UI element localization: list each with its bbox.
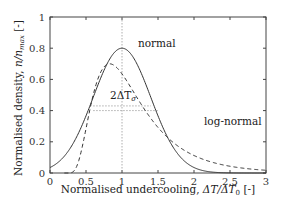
normal-label: normal <box>138 37 176 49</box>
y-tick-label: 0.8 <box>29 43 45 54</box>
y-tick-label: 0 <box>39 168 45 179</box>
y-tick-label: 0.6 <box>29 74 45 85</box>
x-tick-label: 3 <box>263 176 269 187</box>
density-chart: 00.20.40.60.81 00.511.522.53 normal log-… <box>0 0 284 211</box>
log-normal-label: log-normal <box>204 115 262 127</box>
x-axis-label: Normalised undercooling, ΔT/ΔT0 [-] <box>61 183 255 197</box>
x-tick-label: 0 <box>47 176 53 187</box>
y-tick-label: 1 <box>39 12 45 23</box>
y-axis-label: Normalised density, n/nmax [-] <box>12 20 26 176</box>
y-tick-label: 0.4 <box>29 105 45 116</box>
y-tick-label: 0.2 <box>29 136 45 147</box>
sigma-label: 2ΔTσ <box>110 89 136 103</box>
normal-curve <box>50 48 266 173</box>
